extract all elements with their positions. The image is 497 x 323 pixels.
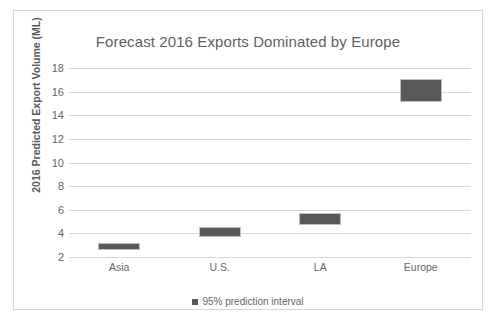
- gridline: [69, 257, 471, 258]
- x-axis-tick-label: U.S.: [210, 261, 230, 273]
- interval-bar[interactable]: [98, 243, 140, 250]
- y-axis-tick-label: 10: [52, 157, 64, 169]
- y-axis-tick-label: 12: [52, 133, 64, 145]
- x-axis-tick-label: Asia: [109, 261, 129, 273]
- y-axis-tick-label: 6: [58, 204, 64, 216]
- y-axis-tick-label: 2: [58, 251, 64, 263]
- gridline: [69, 186, 471, 187]
- y-axis-tick-label: 16: [52, 86, 64, 98]
- x-axis-tick-label: LA: [314, 261, 327, 273]
- interval-bar[interactable]: [199, 227, 241, 236]
- chart-title: Forecast 2016 Exports Dominated by Europ…: [14, 33, 482, 50]
- y-axis-tick-label: 18: [52, 62, 64, 74]
- chart-frame: Forecast 2016 Exports Dominated by Europ…: [13, 10, 483, 310]
- gridline: [69, 139, 471, 140]
- x-axis-labels: AsiaU.S.LAEurope: [69, 261, 471, 279]
- y-axis-tick-label: 4: [58, 227, 64, 239]
- plot-area: 24681012141618: [69, 68, 471, 257]
- y-axis-tick-label: 8: [58, 180, 64, 192]
- interval-bar[interactable]: [400, 79, 442, 103]
- x-axis-tick-label: Europe: [404, 261, 438, 273]
- gridline: [69, 233, 471, 234]
- gridline: [69, 163, 471, 164]
- interval-bar[interactable]: [299, 213, 341, 225]
- gridline: [69, 68, 471, 69]
- gridline: [69, 210, 471, 211]
- y-axis-title: 2016 Predicted Export Volume (ML): [30, 15, 42, 195]
- legend-label: 95% prediction interval: [202, 296, 303, 307]
- y-axis-tick-label: 14: [52, 109, 64, 121]
- legend-swatch-icon: [192, 299, 198, 305]
- gridline: [69, 115, 471, 116]
- chart-legend: 95% prediction interval: [14, 296, 482, 307]
